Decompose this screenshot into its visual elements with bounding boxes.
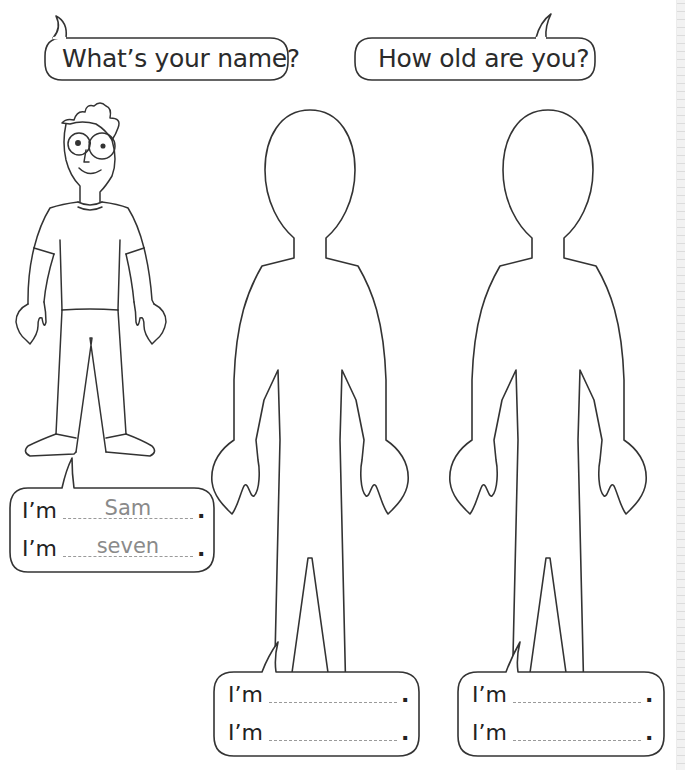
figure-2-line-name: I’m .: [472, 678, 653, 708]
question-age-text: How old are you?: [378, 44, 589, 74]
answer-blank-input[interactable]: [269, 718, 397, 741]
line-prefix: I’m: [228, 682, 263, 708]
line-prefix: I’m: [472, 720, 507, 746]
answer-text-age: seven: [63, 534, 193, 558]
worksheet-artwork: [0, 0, 685, 770]
example-line-name: I’m Sam .: [22, 494, 205, 524]
answer-blank-input[interactable]: [513, 680, 641, 703]
example-line-age: I’m seven .: [22, 532, 205, 562]
line-suffix: .: [645, 682, 653, 708]
line-prefix: I’m: [22, 536, 57, 562]
blank-figure-1: [212, 110, 408, 734]
line-suffix: .: [645, 720, 653, 746]
example-boy-figure: [16, 103, 166, 456]
page-edge-strip: [676, 0, 685, 770]
figure-2-line-age: I’m .: [472, 716, 653, 746]
figure-1-line-age: I’m .: [228, 716, 409, 746]
line-suffix: .: [197, 498, 205, 524]
blank-figure-2: [450, 110, 646, 734]
line-suffix: .: [197, 536, 205, 562]
answer-blank: Sam: [63, 496, 193, 519]
question-name-text: What’s your name?: [62, 44, 300, 74]
answer-text-name: Sam: [63, 496, 193, 520]
line-suffix: .: [401, 682, 409, 708]
answer-blank-input[interactable]: [513, 718, 641, 741]
answer-blank: seven: [63, 534, 193, 557]
line-suffix: .: [401, 720, 409, 746]
line-prefix: I’m: [228, 720, 263, 746]
line-prefix: I’m: [472, 682, 507, 708]
line-prefix: I’m: [22, 498, 57, 524]
answer-blank-input[interactable]: [269, 680, 397, 703]
figure-1-line-name: I’m .: [228, 678, 409, 708]
